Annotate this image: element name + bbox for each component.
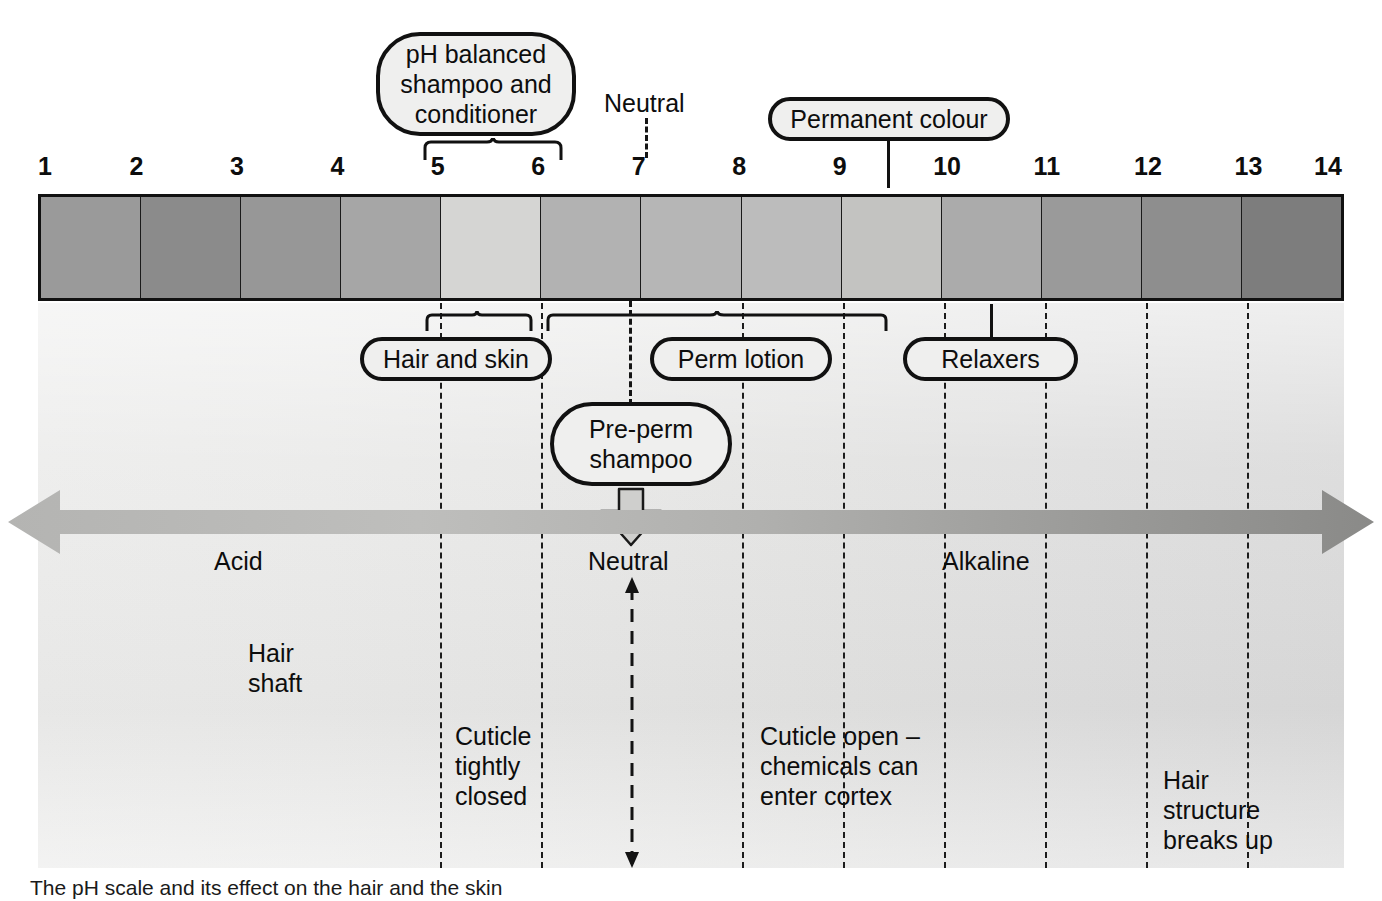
zone-hair-structure-breaks-up: Hair structure breaks up [1163,765,1273,855]
callout-perm-lotion-label: Perm lotion [678,344,804,374]
ph-tick-8: 8 [732,152,746,181]
ph-band-7-8 [641,197,741,298]
zone-cuticle-open: Cuticle open – chemicals can enter corte… [760,721,920,811]
ph-tick-7: 7 [632,152,646,181]
ph-tick-14: 14 [1314,152,1342,181]
ph-tick-5: 5 [431,152,445,181]
ph-band-12-13 [1142,197,1242,298]
ph-tick-2: 2 [129,152,143,181]
ph-band-4-5 [341,197,441,298]
neutral-vertical-arrow [622,575,642,870]
callout-ph-balanced-label: pH balanced shampoo and conditioner [400,39,552,129]
ph-tick-9: 9 [833,152,847,181]
panel-gradient-overlay [38,303,1344,868]
ph-tick-3: 3 [230,152,244,181]
guide-ph11 [1045,303,1047,868]
pre-perm-dashed-leader [629,301,632,405]
guide-ph10 [944,303,946,868]
acid-alkaline-double-arrow [8,488,1374,556]
callout-permanent-colour[interactable]: Permanent colour [768,97,1010,141]
permanent-colour-leader [887,141,890,188]
guide-ph6 [541,303,543,868]
callout-ph-balanced-shampoo[interactable]: pH balanced shampoo and conditioner [376,32,576,136]
zone-cuticle-tightly-closed: Cuticle tightly closed [455,721,531,811]
ph-scale-diagram: pH balanced shampoo and conditioner Neut… [0,0,1382,901]
ph-tick-4: 4 [330,152,344,181]
lower-alkaline-label: Alkaline [942,546,1030,576]
ph-colour-scale [38,194,1344,301]
ph-tick-13: 13 [1235,152,1263,181]
ph-band-1-2 [41,197,141,298]
relaxers-leader [990,304,993,338]
brace-hair-and-skin [425,311,533,333]
callout-hair-and-skin-label: Hair and skin [383,344,529,374]
callout-perm-lotion[interactable]: Perm lotion [650,337,832,381]
lower-acid-label: Acid [214,546,263,576]
guide-ph5 [440,303,442,868]
guide-ph8 [742,303,744,868]
callout-permanent-colour-label: Permanent colour [790,104,987,134]
ph-tick-6: 6 [531,152,545,181]
ph-band-11-12 [1042,197,1142,298]
figure-caption: The pH scale and its effect on the hair … [30,880,502,900]
ph-band-2-3 [141,197,241,298]
lower-neutral-label: Neutral [588,546,669,576]
ph-band-13-14 [1242,197,1341,298]
ph-band-10-11 [942,197,1042,298]
ph-band-9-10 [842,197,942,298]
hair-shaft-label: Hair shaft [248,638,302,698]
neutral-top-label: Neutral [604,88,685,118]
callout-pre-perm-shampoo[interactable]: Pre-perm shampoo [550,402,732,486]
ph-tick-12: 12 [1134,152,1162,181]
guide-ph12 [1146,303,1148,868]
ph-tick-1: 1 [38,152,52,181]
ph-tick-10: 10 [933,152,961,181]
hair-condition-panel [38,303,1344,868]
ph-band-3-4 [241,197,341,298]
callout-relaxers-label: Relaxers [941,344,1040,374]
ph-band-8-9 [742,197,842,298]
ph-band-5-6 [441,197,541,298]
brace-perm-lotion [546,311,888,333]
callout-relaxers[interactable]: Relaxers [903,337,1078,381]
callout-hair-and-skin[interactable]: Hair and skin [360,337,552,381]
figure-caption-strip: The pH scale and its effect on the hair … [0,880,1382,901]
ph-tick-11: 11 [1034,152,1060,181]
ph-band-6-7 [541,197,641,298]
callout-pre-perm-shampoo-label: Pre-perm shampoo [589,414,693,474]
